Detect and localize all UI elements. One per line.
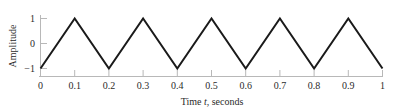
x-axis-title-prefix: Time [181, 96, 204, 107]
y-tick-label-neg1: −1 [24, 63, 35, 74]
x-tick-label-0-7: 0.7 [274, 80, 287, 91]
x-tick-label-1: 1 [380, 80, 385, 91]
y-tick-label-0: 0 [30, 38, 35, 49]
x-tick-label-0-5: 0.5 [205, 80, 218, 91]
y-axis-title: Amplitude [7, 24, 18, 67]
x-tick-label-0-4: 0.4 [171, 80, 184, 91]
x-axis-title: Time t, seconds [181, 96, 244, 107]
x-axis-ticks [41, 70, 383, 76]
triangle-wave-series [41, 19, 383, 69]
x-axis-title-suffix: , seconds [207, 96, 244, 107]
x-tick-label-0-9: 0.9 [342, 80, 355, 91]
x-tick-label-0-1: 0.1 [68, 80, 81, 91]
x-tick-label-0: 0 [38, 80, 43, 91]
x-tick-labels: 0 0.1 0.2 0.3 0.4 0.5 0.6 0.7 0.8 0.9 1 [38, 80, 385, 91]
x-tick-label-0-3: 0.3 [137, 80, 150, 91]
x-tick-label-0-8: 0.8 [308, 80, 321, 91]
x-tick-label-0-6: 0.6 [239, 80, 252, 91]
triangle-wave-plot: 1 0 −1 0 0.1 0.2 0.3 0.4 0.5 0.6 0.7 0.8… [0, 0, 397, 111]
chart-figure: 1 0 −1 0 0.1 0.2 0.3 0.4 0.5 0.6 0.7 0.8… [0, 0, 397, 111]
y-tick-label-1: 1 [30, 13, 35, 24]
x-tick-label-0-2: 0.2 [103, 80, 116, 91]
y-tick-labels: 1 0 −1 [24, 13, 35, 74]
